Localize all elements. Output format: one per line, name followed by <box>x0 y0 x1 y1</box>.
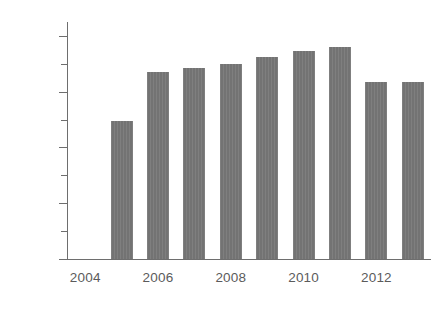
x-axis-tick-label: 2008 <box>196 270 266 285</box>
x-axis-tick-label: 2012 <box>341 270 411 285</box>
bar <box>293 51 315 259</box>
bar <box>183 68 205 259</box>
y-axis-major-tick <box>59 92 67 93</box>
y-axis-major-tick <box>59 36 67 37</box>
bar <box>329 47 351 259</box>
bar <box>365 82 387 259</box>
bar <box>256 57 278 259</box>
y-axis-major-tick <box>59 203 67 204</box>
bars-group <box>67 22 431 259</box>
x-axis-line <box>67 259 431 260</box>
x-axis-tick-label: 2004 <box>50 270 120 285</box>
bar <box>147 72 169 259</box>
bar-chart: 04080120160 20042006200820102012 <box>0 0 448 310</box>
y-axis-major-tick <box>59 147 67 148</box>
bar <box>111 121 133 259</box>
y-axis-major-tick <box>59 259 67 260</box>
x-axis-tick-label: 2010 <box>269 270 339 285</box>
bar <box>402 82 424 259</box>
x-axis-tick-label: 2006 <box>123 270 193 285</box>
bar <box>220 64 242 259</box>
